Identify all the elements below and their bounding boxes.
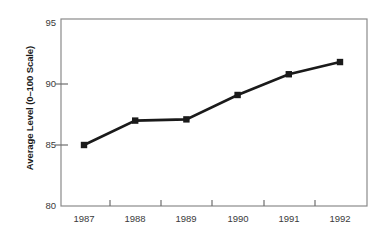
data-point-1990	[234, 92, 240, 98]
data-point-1991	[286, 71, 292, 77]
line-chart: Average Level (0–100 Scale) 95 90 85 80 …	[0, 0, 381, 240]
data-point-1989	[183, 116, 189, 122]
plot-area	[0, 0, 381, 240]
data-point-1988	[132, 117, 138, 123]
plot-background	[61, 19, 367, 206]
data-point-1992	[337, 59, 343, 65]
data-point-1987	[81, 142, 87, 148]
